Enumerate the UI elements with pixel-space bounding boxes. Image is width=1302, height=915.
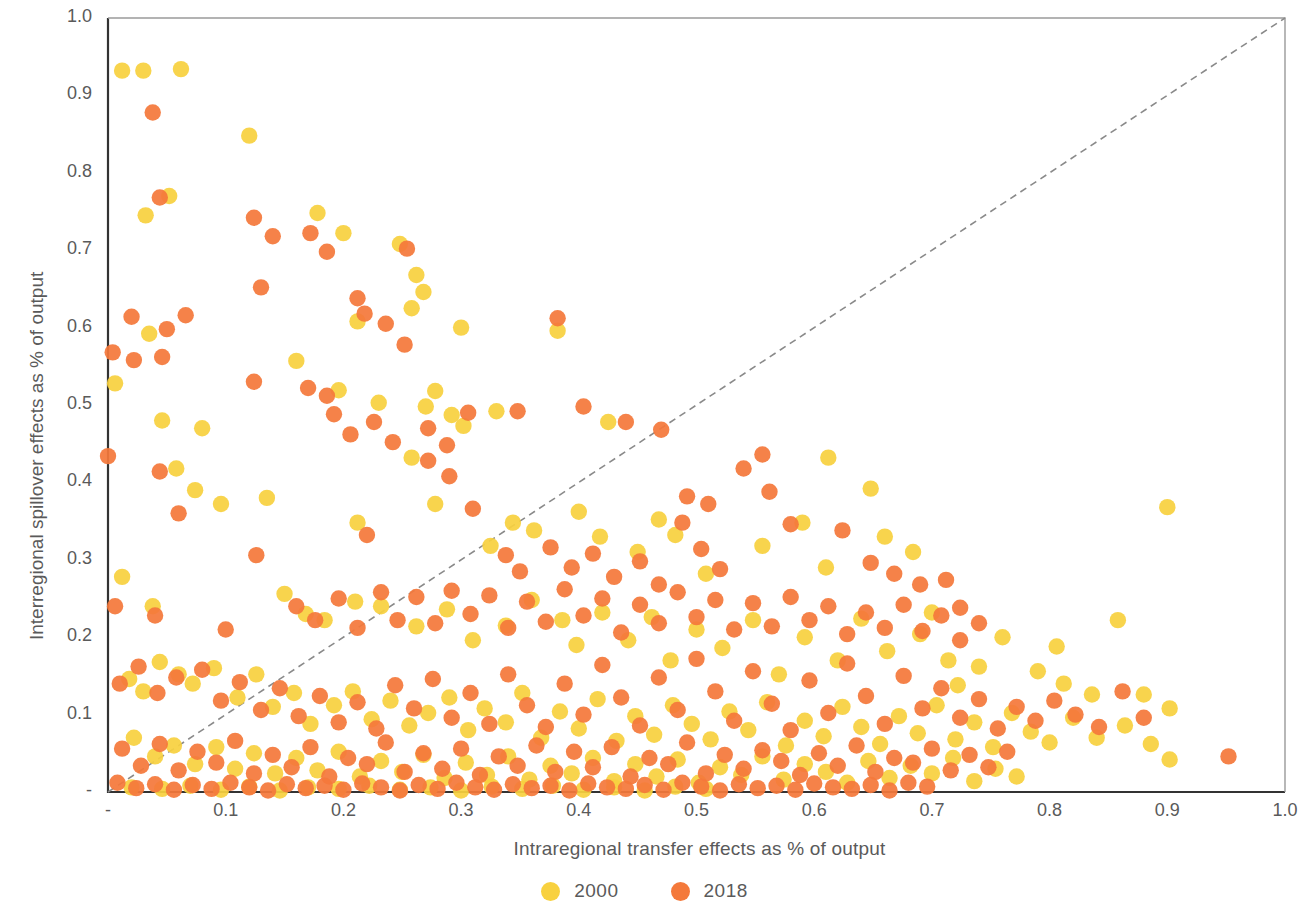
data-point [465,632,481,648]
data-point [914,700,930,716]
data-point [368,720,384,736]
data-point [382,692,398,708]
data-point [141,326,157,342]
data-point [641,750,657,766]
data-point [538,614,554,630]
data-point [905,544,921,560]
data-point [152,463,168,479]
data-point [159,321,175,337]
data-point [599,779,615,795]
data-point [462,606,478,622]
data-point [600,414,616,430]
data-point [425,671,441,687]
data-point [688,609,704,625]
data-point [403,449,419,465]
data-point [571,504,587,520]
data-point [820,705,836,721]
data-point [891,708,907,724]
data-point [693,541,709,557]
data-point [253,702,269,718]
data-point [844,781,860,797]
data-point [754,538,770,554]
data-point [863,480,879,496]
data-point [653,422,669,438]
legend-item[interactable]: 2000 [541,880,618,902]
data-point [498,547,514,563]
data-point [415,284,431,300]
legend-item[interactable]: 2018 [671,880,748,902]
data-point [613,624,629,640]
data-point [406,700,422,716]
data-point [834,522,850,538]
data-point [971,658,987,674]
data-point [768,778,784,794]
data-point [232,674,248,690]
data-point [208,739,224,755]
data-point [342,426,358,442]
data-point [839,626,855,642]
data-point [194,662,210,678]
data-point [524,780,540,796]
data-point [335,781,351,797]
data-point [241,127,257,143]
data-point [594,657,610,673]
data-point [585,545,601,561]
data-point [592,528,608,544]
data-point [168,669,184,685]
data-point [166,781,182,797]
data-point [1110,612,1126,628]
data-point [253,279,269,295]
data-point [801,672,817,688]
data-point [396,764,412,780]
data-point [218,621,234,637]
data-point [100,448,116,464]
data-point [679,734,695,750]
data-point [910,725,926,741]
data-point [105,344,121,360]
data-point [399,240,415,256]
data-point [378,734,394,750]
data-point [707,683,723,699]
legend-label: 2018 [704,880,748,902]
data-point [476,700,492,716]
data-point [152,189,168,205]
data-point [632,717,648,733]
data-point [971,615,987,631]
data-point [1161,751,1177,767]
data-point [173,61,189,77]
data-point [222,775,238,791]
data-point [500,620,516,636]
data-point [512,563,528,579]
data-point [1048,638,1064,654]
data-point [712,561,728,577]
data-point [714,640,730,656]
data-point [135,62,151,78]
identity-reference-line [108,18,1285,792]
data-point [128,780,144,796]
data-point [669,702,685,718]
data-point [881,782,897,798]
data-point [594,590,610,606]
data-point [1143,736,1159,752]
data-point [401,717,417,733]
data-point [1117,717,1133,733]
data-point [886,566,902,582]
series-points-2018 [100,104,1237,798]
data-point [170,505,186,521]
data-point [990,720,1006,736]
data-point [853,719,869,735]
data-point [279,776,295,792]
data-point [1161,700,1177,716]
data-point [1030,663,1046,679]
data-point [126,352,142,368]
data-point [133,757,149,773]
data-point [411,777,427,793]
data-point [283,759,299,775]
data-point [858,604,874,620]
data-point [147,776,163,792]
data-point [149,685,165,701]
data-point [107,598,123,614]
data-point [443,583,459,599]
data-point [229,689,245,705]
